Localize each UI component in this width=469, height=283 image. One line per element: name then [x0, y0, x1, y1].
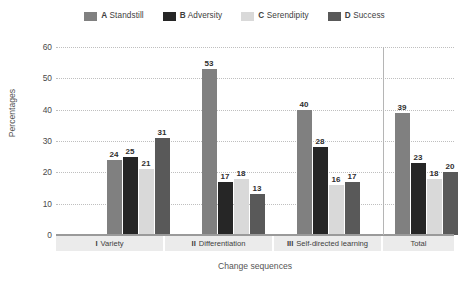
- chart-legend: A StandstillB AdversityC SerendipityD Su…: [0, 12, 469, 21]
- bar-group: 39231820: [393, 47, 459, 235]
- category-name: Self-directed learning: [296, 239, 368, 248]
- bar-slot: 18: [427, 47, 442, 235]
- bar-chart: A StandstillB AdversityC SerendipityD Su…: [0, 0, 469, 283]
- bar-value-label: 40: [300, 100, 309, 109]
- bar-slot: 24: [107, 47, 122, 235]
- bar-slot: 31: [155, 47, 170, 235]
- bar[interactable]: [234, 179, 249, 235]
- legend-item-adversity[interactable]: B Adversity: [163, 12, 223, 21]
- legend-swatch-icon: [84, 12, 97, 21]
- x-axis-title: Change sequences: [56, 261, 454, 271]
- bar-value-label: 28: [316, 137, 325, 146]
- bar[interactable]: [313, 147, 328, 235]
- legend-swatch-icon: [241, 12, 254, 21]
- category-name: Differentiation: [199, 239, 246, 248]
- bar[interactable]: [411, 163, 426, 235]
- legend-label: B Adversity: [180, 12, 223, 20]
- bar-value-label: 18: [237, 169, 246, 178]
- bar[interactable]: [329, 185, 344, 235]
- bar[interactable]: [123, 157, 138, 235]
- bar-slot: 25: [123, 47, 138, 235]
- legend-item-serendipity[interactable]: C Serendipity: [241, 12, 308, 21]
- bar-value-label: 20: [446, 162, 455, 171]
- category-label-2: IIDifferentiation: [165, 236, 274, 251]
- legend-item-success[interactable]: D Success: [328, 12, 385, 21]
- category-label-1: IVariety: [56, 236, 165, 251]
- bar-value-label: 39: [398, 103, 407, 112]
- bar-value-label: 21: [142, 159, 151, 168]
- category-label-4: Total: [383, 236, 454, 251]
- bar-slot: 21: [139, 47, 154, 235]
- category-band: IVarietyIIDifferentiationIIISelf-directe…: [56, 236, 454, 251]
- y-tick-label: 10: [6, 199, 52, 209]
- bar-slot: 23: [411, 47, 426, 235]
- y-tick-label: 30: [6, 136, 52, 146]
- bar-slot: 39: [395, 47, 410, 235]
- y-tick-label: 20: [6, 167, 52, 177]
- bar-value-label: 23: [414, 153, 423, 162]
- bar-value-label: 25: [126, 147, 135, 156]
- legend-label: C Serendipity: [258, 12, 308, 20]
- y-tick-label: 0: [6, 230, 52, 240]
- bar-slot: 18: [234, 47, 249, 235]
- bar-slot: 16: [329, 47, 344, 235]
- bar[interactable]: [202, 69, 217, 235]
- bar-group: 53171813: [200, 47, 266, 235]
- bar-value-label: 16: [332, 175, 341, 184]
- bar-value-label: 13: [253, 184, 262, 193]
- bar-value-label: 53: [205, 59, 214, 68]
- bar[interactable]: [345, 182, 360, 235]
- bar-value-label: 31: [158, 128, 167, 137]
- category-name: Total: [410, 239, 426, 248]
- category-numeral: II: [192, 239, 196, 248]
- y-tick-label: 60: [6, 42, 52, 52]
- y-tick-label: 40: [6, 105, 52, 115]
- legend-label: A Standstill: [101, 12, 144, 20]
- y-tick-label: 50: [6, 73, 52, 83]
- bar[interactable]: [297, 110, 312, 235]
- bar-value-label: 17: [348, 172, 357, 181]
- bar[interactable]: [107, 160, 122, 235]
- bar-value-label: 24: [110, 150, 119, 159]
- bar-slot: 17: [218, 47, 233, 235]
- category-numeral: III: [287, 239, 293, 248]
- bar[interactable]: [155, 138, 170, 235]
- category-label-3: IIISelf-directed learning: [274, 236, 383, 251]
- bars-layer: 24252131531718134028161739231820: [56, 47, 454, 235]
- total-group-divider: [383, 47, 384, 235]
- bar-group: 40281617: [295, 47, 361, 235]
- bar[interactable]: [443, 172, 458, 235]
- bar[interactable]: [395, 113, 410, 235]
- bar-group: 24252131: [105, 47, 171, 235]
- bar-value-label: 17: [221, 172, 230, 181]
- bar-value-label: 18: [430, 169, 439, 178]
- legend-swatch-icon: [328, 12, 341, 21]
- bar-slot: 53: [202, 47, 217, 235]
- legend-item-standstill[interactable]: A Standstill: [84, 12, 144, 21]
- category-name: Variety: [101, 239, 124, 248]
- y-axis-ticks: 0102030405060: [0, 47, 52, 235]
- legend-label: D Success: [345, 12, 385, 20]
- bar-slot: 17: [345, 47, 360, 235]
- legend-swatch-icon: [163, 12, 176, 21]
- bar-slot: 13: [250, 47, 265, 235]
- bar[interactable]: [427, 179, 442, 235]
- bar[interactable]: [250, 194, 265, 235]
- bar[interactable]: [139, 169, 154, 235]
- category-numeral: I: [95, 239, 97, 248]
- bar[interactable]: [218, 182, 233, 235]
- bar-slot: 40: [297, 47, 312, 235]
- bar-slot: 20: [443, 47, 458, 235]
- bar-slot: 28: [313, 47, 328, 235]
